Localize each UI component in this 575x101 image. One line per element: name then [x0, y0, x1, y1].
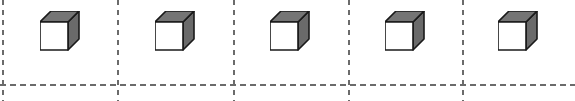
cube-5 — [498, 11, 538, 51]
cube-front-face — [40, 22, 68, 50]
cube-front-face — [498, 22, 526, 50]
cube-4 — [385, 11, 425, 51]
cube-front-face — [385, 22, 413, 50]
cube-front-face — [270, 22, 298, 50]
cube-1 — [40, 11, 80, 51]
cube-3 — [270, 11, 310, 51]
cube-grid-canvas — [0, 0, 575, 101]
cube-front-face — [155, 22, 183, 50]
cube-2 — [155, 11, 195, 51]
